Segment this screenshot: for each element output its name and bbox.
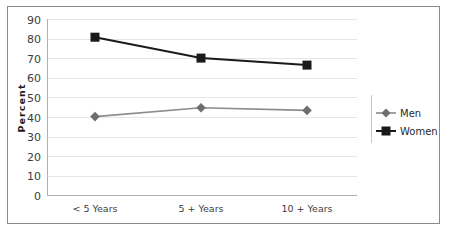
men-point-0 bbox=[90, 112, 100, 122]
chart-legend: Men Women bbox=[372, 95, 438, 143]
y-tick-60: 60 bbox=[27, 72, 41, 85]
line-chart: 90 80 70 60 50 40 30 20 10 0 Percent < 5… bbox=[0, 0, 450, 231]
y-tick-20: 20 bbox=[27, 151, 41, 164]
y-tick-labels: 90 80 70 60 50 40 30 20 10 0 bbox=[27, 14, 41, 203]
series-women bbox=[91, 33, 312, 70]
men-point-2 bbox=[302, 106, 312, 116]
legend-item-women[interactable]: Women bbox=[376, 126, 438, 137]
y-axis-title: Percent bbox=[16, 83, 27, 132]
legend-women-square-icon bbox=[382, 127, 391, 136]
gridlines bbox=[47, 20, 357, 177]
y-tick-0: 0 bbox=[34, 190, 41, 203]
y-tick-30: 30 bbox=[27, 131, 41, 144]
men-point-1 bbox=[196, 103, 206, 113]
x-tick-labels: < 5 Years 5 + Years 10 + Years bbox=[72, 203, 332, 214]
legend-women-label: Women bbox=[400, 126, 438, 137]
y-tick-10: 10 bbox=[27, 170, 41, 183]
y-tick-70: 70 bbox=[27, 53, 41, 66]
y-tick-80: 80 bbox=[27, 33, 41, 46]
y-tick-90: 90 bbox=[27, 14, 41, 27]
series-men bbox=[90, 103, 312, 121]
chart-container: 90 80 70 60 50 40 30 20 10 0 Percent < 5… bbox=[0, 0, 450, 231]
legend-item-men[interactable]: Men bbox=[376, 108, 421, 119]
y-tick-40: 40 bbox=[27, 112, 41, 125]
x-tick-1: 5 + Years bbox=[178, 203, 223, 214]
women-point-0 bbox=[91, 33, 100, 42]
women-point-2 bbox=[303, 61, 312, 70]
y-tick-50: 50 bbox=[27, 92, 41, 105]
x-tick-2: 10 + Years bbox=[281, 203, 332, 214]
women-point-1 bbox=[197, 54, 206, 63]
legend-men-label: Men bbox=[400, 108, 421, 119]
x-tick-0: < 5 Years bbox=[72, 203, 117, 214]
legend-men-diamond-icon bbox=[381, 108, 390, 117]
